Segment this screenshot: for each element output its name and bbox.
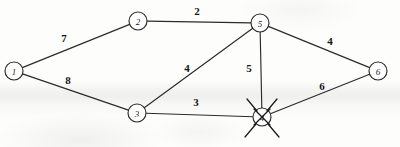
nodes-layer: 123456	[5, 12, 387, 126]
graph-edge-1-3	[23, 74, 129, 110]
graph-edge-3-4	[146, 113, 253, 116]
graph-node-1[interactable]: 1	[5, 62, 23, 80]
graph-node-2[interactable]: 2	[129, 12, 147, 30]
cross-out-stroke-4	[267, 99, 277, 111]
graph-node-3[interactable]: 3	[128, 104, 146, 122]
edge-weight-4-6: 6	[319, 80, 325, 92]
edge-weight-3-4: 3	[193, 96, 199, 108]
edge-weights-layer: 78243546	[61, 5, 333, 108]
edge-weight-1-3: 8	[65, 74, 71, 86]
graph-edge-5-4	[260, 32, 262, 108]
graph-node-5[interactable]: 5	[251, 14, 269, 32]
diagram-canvas: 123456 78243546	[0, 0, 400, 147]
node-label-1: 1	[12, 67, 17, 77]
node-label-3: 3	[134, 109, 140, 119]
cross-out-stroke-3	[247, 99, 257, 111]
node-label-5: 5	[258, 19, 263, 29]
edge-weight-1-2: 7	[61, 32, 67, 44]
node-label-6: 6	[376, 67, 381, 77]
edge-weight-5-6: 4	[327, 35, 333, 47]
cross-out-stroke-5	[245, 124, 256, 137]
edge-weight-5-4: 5	[246, 62, 252, 74]
weighted-graph: 123456 78243546	[0, 0, 400, 147]
node-label-2: 2	[136, 17, 141, 27]
cross-out-stroke-6	[268, 124, 279, 137]
graph-node-6[interactable]: 6	[369, 62, 387, 80]
edge-weight-2-5: 2	[194, 5, 200, 17]
edge-weight-3-5: 4	[184, 62, 190, 74]
graph-edge-1-2	[22, 24, 129, 67]
graph-edge-5-6	[268, 26, 369, 67]
graph-edge-2-5	[147, 21, 251, 23]
